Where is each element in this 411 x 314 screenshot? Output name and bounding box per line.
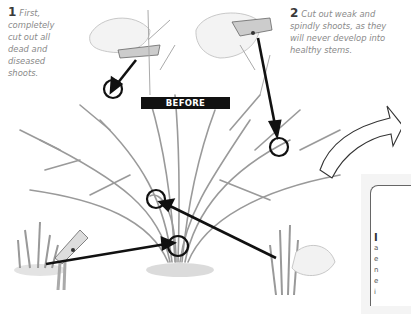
- step-2-number: 2: [290, 6, 298, 20]
- side-panel-line: n: [374, 265, 394, 276]
- side-panel-drop-cap: I: [374, 232, 394, 243]
- step-2-text: Cut out weak and spindly shoots, as they…: [290, 9, 386, 55]
- side-panel-line: i: [374, 287, 394, 298]
- side-panel-line: a: [374, 243, 394, 254]
- side-panel-line: e: [374, 254, 394, 265]
- step-1-caption: 1First, completely cut out all dead and …: [8, 6, 70, 79]
- step-1-text: First, completely cut out all dead and d…: [8, 8, 54, 78]
- step-2-caption: 2Cut out weak and spindly shoots, as the…: [290, 7, 400, 56]
- cut-stumps-left-icon: [18, 222, 58, 268]
- next-step-arrow-icon: [320, 106, 401, 178]
- side-panel-line: e: [374, 276, 394, 287]
- side-panel-text: I a e n e i: [374, 232, 394, 298]
- hand-right-bottom-icon: [292, 245, 335, 275]
- before-label: BEFORE: [141, 97, 230, 109]
- step-1-number: 1: [8, 5, 16, 19]
